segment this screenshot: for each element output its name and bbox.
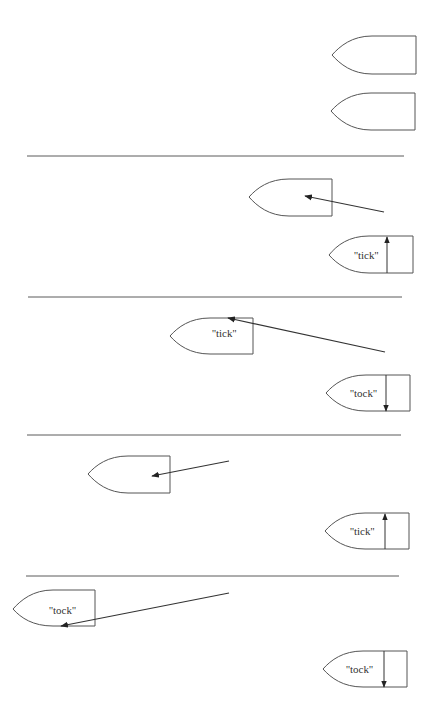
clock-label: ''tick'' <box>350 525 374 537</box>
panel-1 <box>331 36 416 130</box>
panel-5: ''tock'' ''tock'' <box>13 590 407 687</box>
tick-tock-diagram: ''tick'' ''tick'' ''tock'' ''tick'' ''to… <box>0 0 434 720</box>
moving-boat-label: ''tick'' <box>212 327 236 339</box>
panel-2: ''tick'' <box>249 179 413 273</box>
clock-label: ''tock'' <box>350 387 377 399</box>
moving-boat <box>332 36 416 74</box>
moving-boat <box>249 179 332 216</box>
clock-label: ''tock'' <box>346 663 373 675</box>
moving-boat-label: ''tock'' <box>49 604 76 616</box>
clock-boat <box>331 93 415 130</box>
clock-label: ''tick'' <box>354 249 378 261</box>
panel-4: ''tick'' <box>88 456 409 549</box>
panel-3: ''tick'' ''tock'' <box>170 318 410 411</box>
